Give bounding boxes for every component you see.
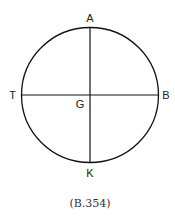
label-t: T — [9, 89, 16, 101]
circle-diagram: A T B G K (B.354) — [0, 0, 175, 219]
label-a: A — [86, 12, 94, 24]
label-k: K — [86, 167, 94, 179]
figure-caption: (B.354) — [69, 197, 110, 210]
label-g: G — [76, 98, 85, 110]
label-b: B — [162, 89, 169, 101]
